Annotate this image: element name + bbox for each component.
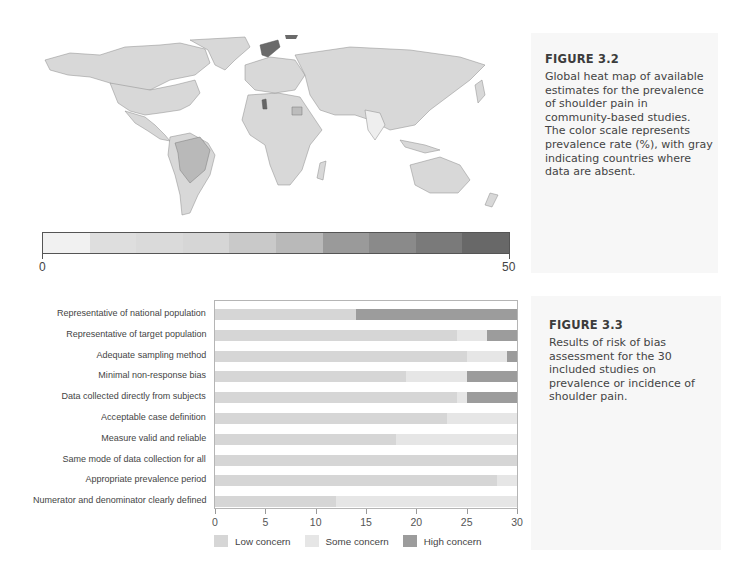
figure-3-2-caption-panel: FIGURE 3.2 Global heat map of available … [531,33,718,273]
y-axis-label: Minimal non-response bias [98,369,206,380]
bar-segment-high [507,351,517,362]
y-axis-label: Numerator and denominator clearly define… [33,494,206,505]
bar-row [215,434,517,445]
scale-bin-10 [462,233,509,253]
bar-segment-high [487,330,517,341]
legend-high-concern: High concern [403,535,482,547]
y-axis-label: Same mode of data collection for all [63,453,206,464]
scale-max-label: 50 [502,260,515,274]
bar-segment-low [215,496,336,507]
scale-tick-max [509,254,510,259]
x-tick [416,509,417,514]
bar-row [215,309,517,320]
color-scale [42,232,510,254]
x-tick [517,509,518,514]
legend-label-some: Some concern [326,536,389,547]
x-tick-label: 25 [457,516,477,528]
bar-row [215,496,517,507]
bar-row [215,351,517,362]
bar-segment-low [215,455,517,466]
x-tick-label: 10 [306,516,326,528]
legend-label-high: High concern [424,536,482,547]
scale-min-label: 0 [39,260,46,274]
y-axis-label: Representative of national population [57,307,206,318]
x-tick-label: 0 [205,516,225,528]
bar-segment-high [467,392,517,403]
x-tick [366,509,367,514]
legend-swatch-high [403,535,417,547]
bar-segment-some [447,413,517,424]
scale-bin-6 [276,233,323,253]
legend-some-concern: Some concern [305,535,389,547]
y-axis-label: Representative of target population [66,328,206,339]
bar-row [215,371,517,382]
y-axis-label: Acceptable case definition [101,411,206,422]
x-tick-label: 15 [356,516,376,528]
chart-legend: Low concern Some concern High concern [214,535,495,547]
bar-row [215,455,517,466]
legend-label-low: Low concern [235,536,291,547]
bar-segment-some [497,475,517,486]
bar-row [215,392,517,403]
bar-segment-some [457,330,487,341]
bar-segment-some [396,434,517,445]
y-axis-label: Adequate sampling method [96,349,206,360]
x-tick [467,509,468,514]
bar-segment-high [356,309,517,320]
bar-segment-low [215,351,467,362]
scale-bin-1 [43,233,90,253]
figure-3-3-caption-panel: FIGURE 3.3 Results of risk of bias asses… [531,296,721,550]
y-axis-label: Measure valid and reliable [101,432,206,443]
x-tick-label: 20 [406,516,426,528]
bar-segment-some [336,496,517,507]
bar-segment-low [215,330,457,341]
world-heat-map [30,35,525,225]
figure-3-3-title: FIGURE 3.3 [549,318,721,332]
bar-row [215,413,517,424]
risk-of-bias-plot-area [214,300,518,509]
bar-segment-low [215,371,406,382]
x-tick-label: 5 [255,516,275,528]
y-axis-label: Data collected directly from subjects [62,390,206,401]
bar-segment-some [406,371,466,382]
scale-bin-7 [323,233,370,253]
x-tick [215,509,216,514]
scale-bin-5 [229,233,276,253]
figure-3-2-title: FIGURE 3.2 [545,52,718,66]
bar-segment-low [215,434,396,445]
scale-bin-4 [183,233,230,253]
bar-segment-some [467,351,507,362]
bar-segment-some [457,392,467,403]
bar-row [215,475,517,486]
bar-segment-low [215,392,457,403]
bar-row [215,330,517,341]
bar-segment-low [215,309,356,320]
x-tick [265,509,266,514]
y-axis-label: Appropriate prevalence period [85,473,206,484]
bar-segment-high [467,371,517,382]
x-tick-label: 30 [507,516,527,528]
legend-swatch-low [214,535,228,547]
figure-3-2-caption: Global heat map of available estimates f… [545,70,713,179]
scale-bin-3 [136,233,183,253]
scale-bin-8 [369,233,416,253]
scale-bin-2 [90,233,137,253]
legend-swatch-some [305,535,319,547]
legend-low-concern: Low concern [214,535,291,547]
bar-segment-low [215,413,447,424]
figure-3-3-caption: Results of risk of bias assessment for t… [549,336,717,404]
bar-segment-low [215,475,497,486]
scale-tick-min [42,254,43,259]
scale-bin-9 [416,233,463,253]
x-tick [316,509,317,514]
